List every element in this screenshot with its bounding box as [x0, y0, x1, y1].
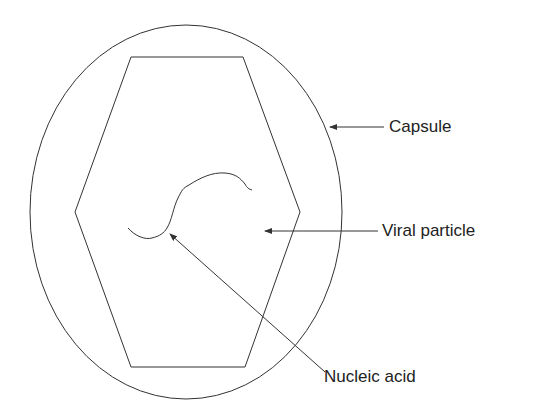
nucleic-acid-strand	[128, 173, 252, 239]
capsule-outline	[30, 25, 342, 399]
viral-particle-label: Viral particle	[382, 222, 475, 239]
virus-diagram	[0, 0, 534, 417]
viral-particle-hexagon	[75, 57, 300, 367]
capsule-label: Capsule	[389, 118, 451, 135]
nucleic-acid-label: Nucleic acid	[324, 368, 416, 385]
nucleic-acid-arrow	[170, 234, 325, 372]
